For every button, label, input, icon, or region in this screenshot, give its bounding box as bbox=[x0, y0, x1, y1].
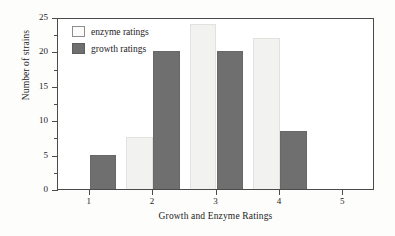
bar-growth-2 bbox=[153, 51, 180, 189]
y-axis-tick-label: 10 bbox=[8, 115, 48, 125]
legend-swatch-icon-enzyme bbox=[72, 26, 85, 37]
x-axis-tick-label: 1 bbox=[74, 196, 104, 206]
y-axis-tick-label: 5 bbox=[8, 150, 48, 160]
y-axis-tick-major bbox=[52, 190, 58, 191]
y-axis-tick-label: 0 bbox=[8, 184, 48, 194]
y-axis-tick-label: 25 bbox=[8, 12, 48, 22]
x-axis-tick-label: 4 bbox=[264, 196, 294, 206]
y-axis-tick-label: 15 bbox=[8, 81, 48, 91]
x-axis-tick-label: 5 bbox=[327, 196, 357, 206]
bar-chart: Number of strains 0510152025 12345 Growt… bbox=[0, 0, 395, 236]
x-axis-tick-label: 2 bbox=[137, 196, 167, 206]
x-axis-tick bbox=[89, 190, 90, 195]
legend-label-growth: growth ratings bbox=[91, 44, 146, 54]
bar-enzyme-4 bbox=[253, 38, 280, 189]
x-axis-tick-label: 3 bbox=[201, 196, 231, 206]
legend-label-enzyme: enzyme ratings bbox=[91, 27, 149, 37]
x-axis-title: Growth and Enzyme Ratings bbox=[57, 211, 374, 221]
x-axis-tick bbox=[279, 190, 280, 195]
bar-growth-3 bbox=[217, 51, 244, 189]
bar-enzyme-2 bbox=[126, 137, 153, 189]
x-axis-tick bbox=[152, 190, 153, 195]
bar-enzyme-3 bbox=[190, 24, 217, 189]
legend-item-growth: growth ratings bbox=[72, 41, 149, 56]
legend-item-enzyme: enzyme ratings bbox=[72, 24, 149, 39]
bar-growth-1 bbox=[90, 155, 117, 189]
y-axis-tick-label: 20 bbox=[8, 46, 48, 56]
x-axis-tick bbox=[216, 190, 217, 195]
legend: enzyme ratings growth ratings bbox=[72, 24, 149, 58]
bar-growth-4 bbox=[280, 131, 307, 189]
legend-swatch-icon-growth bbox=[72, 43, 85, 54]
x-axis-tick bbox=[342, 190, 343, 195]
